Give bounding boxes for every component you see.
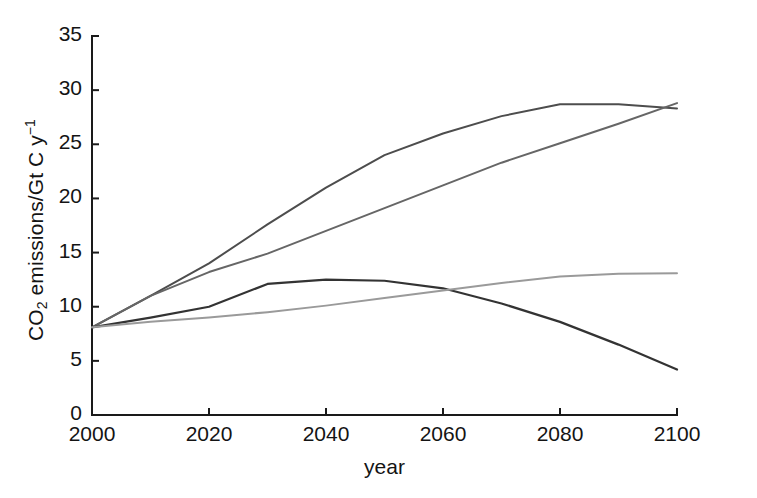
x-tick-label-2060: 2060: [398, 422, 488, 446]
x-tick-label-2020: 2020: [164, 422, 254, 446]
x-tick-label-2000: 2000: [47, 422, 137, 446]
y-tick-label-15: 15: [30, 239, 82, 263]
series-line-2: [92, 280, 677, 370]
series-line-1: [92, 103, 677, 327]
axis-spine-left-bottom: [92, 36, 677, 415]
series-lines: [92, 103, 677, 369]
y-tick-label-25: 25: [30, 130, 82, 154]
series-line-0: [92, 104, 677, 327]
x-tick-label-2080: 2080: [515, 422, 605, 446]
x-tick-label-2100: 2100: [632, 422, 722, 446]
y-tick-label-30: 30: [30, 76, 82, 100]
y-tick-label-10: 10: [30, 293, 82, 317]
y-tick-label-20: 20: [30, 184, 82, 208]
axis-spines: [92, 36, 677, 415]
y-tick-label-35: 35: [30, 22, 82, 46]
figure-co2-emissions-scenarios: CO2 emissions/Gt C y−1 year 051015202530…: [0, 0, 757, 498]
x-tick-label-2040: 2040: [281, 422, 371, 446]
y-tick-label-5: 5: [30, 347, 82, 371]
